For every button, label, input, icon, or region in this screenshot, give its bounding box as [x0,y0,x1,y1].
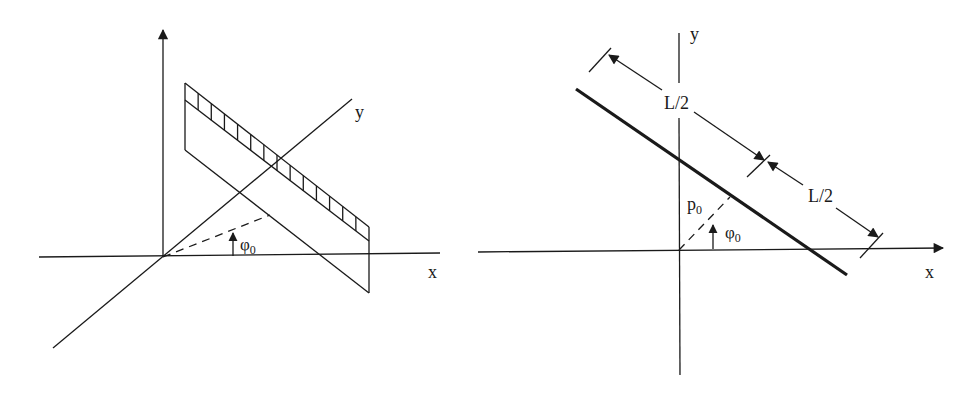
x-axis-label-left: x [428,262,437,282]
angle-label-right: φ0 [725,223,741,245]
half-length-label-bottom: L/2 [808,186,833,206]
figure-canvas: φ0 y x y x L/2 L/2 p0 φ0 [0,0,976,394]
detector-cells [198,93,356,231]
angle-label-left: φ0 [240,235,256,257]
distance-label: p0 [687,194,702,217]
x-axis-right [478,248,943,252]
right-panel-2d-diagram [478,33,943,375]
half-length-label-top: L/2 [664,93,689,113]
dim-arrow-top-left [609,55,662,90]
line-segment [576,89,847,275]
y-axis-label-left: y [355,102,364,122]
tick-middle [747,155,770,177]
y-axis-right-lower [679,118,680,375]
y-axis-left [53,99,352,348]
left-panel-3d-diagram [39,30,440,348]
tick-top [589,48,611,72]
tick-bottom [860,233,883,258]
y-axis-label-right: y [690,24,699,44]
dim-arrow-top-right [694,112,764,160]
dim-arrow-bottom-right [836,208,878,237]
x-axis-label-right: x [925,262,934,282]
projection-plane [185,83,369,293]
dim-arrow-bottom-left [768,162,803,185]
